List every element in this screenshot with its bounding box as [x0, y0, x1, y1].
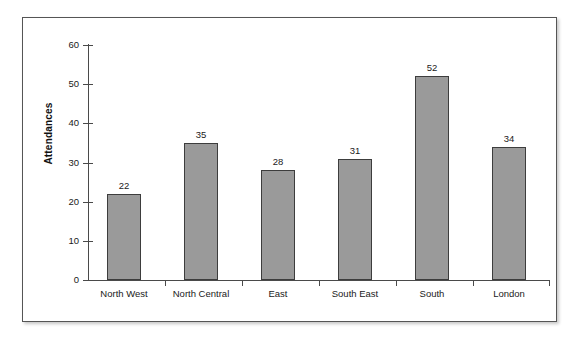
- bar-london[interactable]: [492, 147, 526, 280]
- y-tick-10: [83, 241, 93, 242]
- y-tick-40: [83, 123, 93, 124]
- bar-value-north-west: 22: [99, 181, 149, 191]
- bar-value-north-central: 35: [176, 130, 226, 140]
- x-category-label-south-east: South East: [315, 289, 395, 299]
- x-category-label-north-west: North West: [84, 289, 164, 299]
- y-tick-30: [83, 163, 93, 164]
- y-tick-label-30: 30: [57, 158, 79, 168]
- y-tick-20: [83, 202, 93, 203]
- y-tick-label-0-wrap: 0: [53, 275, 79, 285]
- y-tick-label-20-wrap: 20: [53, 197, 79, 207]
- bar-value-south-east: 31: [330, 146, 380, 156]
- x-category-label-east: East: [238, 289, 318, 299]
- y-tick-label-10-wrap: 10: [53, 236, 79, 246]
- x-category-label-london: London: [469, 289, 549, 299]
- y-tick-label-60: 60: [57, 40, 79, 50]
- plot-area: Attendances 0 10 20 30 40 50 6: [23, 18, 558, 323]
- y-tick-label-30-wrap: 30: [53, 158, 79, 168]
- x-tick-1: [165, 280, 166, 286]
- bar-north-west[interactable]: [107, 194, 141, 280]
- chart-frame: Attendances 0 10 20 30 40 50 6: [22, 17, 557, 322]
- y-tick-label-60-wrap: 60: [53, 40, 79, 50]
- y-tick-label-40: 40: [57, 118, 79, 128]
- y-tick-label-40-wrap: 40: [53, 118, 79, 128]
- x-category-label-south: South: [392, 289, 472, 299]
- bar-value-east: 28: [253, 157, 303, 167]
- y-tick-label-20: 20: [57, 197, 79, 207]
- y-tick-label-50: 50: [57, 79, 79, 89]
- y-tick-60: [83, 45, 93, 46]
- x-tick-6: [549, 280, 550, 286]
- x-category-label-north-central: North Central: [158, 289, 244, 299]
- bar-south-east[interactable]: [338, 159, 372, 280]
- bar-south[interactable]: [415, 76, 449, 280]
- y-tick-label-50-wrap: 50: [53, 79, 79, 89]
- y-tick-50: [83, 84, 93, 85]
- y-tick-label-10: 10: [57, 236, 79, 246]
- x-tick-3: [319, 280, 320, 286]
- x-tick-5: [473, 280, 474, 286]
- bar-value-south: 52: [407, 63, 457, 73]
- x-tick-2: [242, 280, 243, 286]
- x-tick-4: [396, 280, 397, 286]
- y-tick-0: [83, 280, 93, 281]
- bar-value-london: 34: [484, 134, 534, 144]
- y-tick-label-0: 0: [57, 275, 79, 285]
- y-axis-title: Attendances: [43, 64, 54, 204]
- bar-north-central[interactable]: [184, 143, 218, 280]
- bar-east[interactable]: [261, 170, 295, 280]
